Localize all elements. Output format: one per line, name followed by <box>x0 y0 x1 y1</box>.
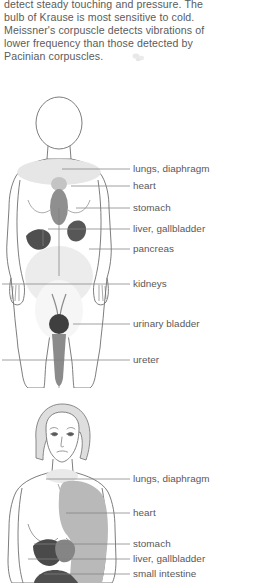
heart-region <box>51 177 67 191</box>
label-ureter: ureter <box>133 354 159 365</box>
figure-upper-body: lungs, diaphragm heart stomach liver, ga… <box>0 396 275 583</box>
head-outline <box>36 97 82 149</box>
intro-paragraph: detect steady touching and pressure. The… <box>4 0 272 63</box>
eye-right <box>67 433 74 436</box>
label-heart: heart <box>133 507 156 518</box>
label-kidneys: kidneys <box>133 278 167 289</box>
label-stomach: stomach <box>133 202 171 213</box>
anterior-body-illustration <box>0 96 275 388</box>
face-outline <box>46 412 79 462</box>
urinary-bladder-region <box>49 314 69 334</box>
label-pancreas: pancreas <box>133 243 174 254</box>
label-urinary-bladder: urinary bladder <box>133 318 200 329</box>
label-stomach: stomach <box>133 538 171 549</box>
label-lungs-diaphragm: lungs, diaphragm <box>133 473 210 484</box>
figure-anterior-whole-body: lungs, diaphragm heart stomach liver, ga… <box>0 96 275 388</box>
label-heart: heart <box>133 180 156 191</box>
label-lungs-diaphragm: lungs, diaphragm <box>133 163 210 174</box>
label-liver-gallbladder: liver, gallbladder <box>133 553 205 564</box>
eye-left <box>51 433 58 436</box>
label-small-intestine: small intestine <box>133 568 196 579</box>
label-liver-gallbladder: liver, gallbladder <box>133 223 205 234</box>
